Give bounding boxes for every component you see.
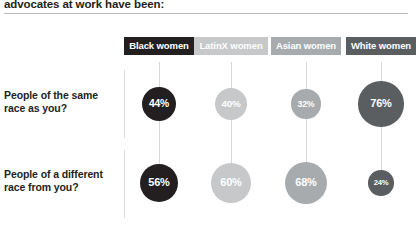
vertical-divider-1 [124,70,125,138]
bubble-value-label: 32% [297,100,314,109]
bubble-r2-c3[interactable]: 68% [285,162,328,205]
column-header-black-women[interactable]: Black women [124,37,194,55]
bubble-value-label: 24% [374,179,389,187]
bubble-r1-c2[interactable]: 40% [215,88,248,121]
bubble-r1-c3[interactable]: 32% [291,89,320,118]
bubble-r1-c1[interactable]: 44% [142,87,176,121]
row-label-2: People of a different race from you? [4,168,116,194]
bubble-value-label: 68% [295,177,316,188]
bubble-value-label: 76% [370,98,391,109]
column-header-asian-women[interactable]: Asian women [271,37,341,55]
bubble-chart: advocates at work have been: Black women… [0,0,419,234]
bubble-value-label: 40% [221,99,240,109]
bubble-value-label: 60% [220,177,241,188]
row-label-1: People of the same race as you? [4,89,116,115]
bubble-r2-c2[interactable]: 60% [211,163,251,203]
vertical-divider-2 [124,150,125,218]
bubble-value-label: 56% [148,177,169,188]
title-divider [4,13,408,14]
page-title: advocates at work have been: [4,0,164,10]
bubble-r2-c1[interactable]: 56% [140,164,179,203]
bubble-r1-c4[interactable]: 76% [358,81,403,126]
bubble-r2-c4[interactable]: 24% [368,170,393,195]
column-header-white-women[interactable]: White women [346,37,416,55]
bubble-value-label: 44% [149,99,169,109]
column-header-latinx-women[interactable]: LatinX women [194,37,268,55]
